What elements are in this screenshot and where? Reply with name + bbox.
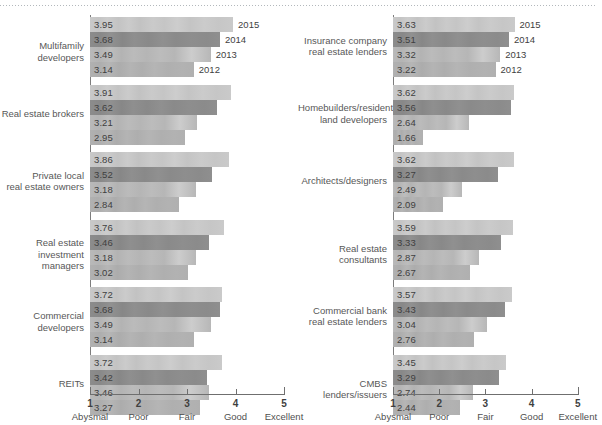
x-axis-tick-3 (485, 389, 486, 394)
bar-value-label: 3.68 (94, 303, 113, 316)
bar-row[interactable]: 3.682014 (0, 32, 298, 47)
bar-row[interactable]: 3.18 (0, 182, 298, 197)
bar-group: 3.763.463.183.02 (0, 220, 298, 280)
bar-row[interactable]: 3.68 (0, 302, 298, 317)
x-axis-tick-5 (578, 387, 579, 395)
bar-value-label: 2.64 (397, 116, 416, 129)
bar-value-label: 2.95 (94, 131, 113, 144)
plot-area-left: Multifamily developers3.9520153.6820143.… (0, 12, 298, 394)
bar-group: 3.573.433.042.76 (298, 287, 596, 347)
x-axis-tick-1 (393, 387, 394, 395)
year-callout-2014: 2014 (514, 33, 535, 46)
bar-value-label: 3.63 (397, 18, 416, 31)
bar-row[interactable]: 3.91 (0, 85, 298, 100)
bar-value-label: 3.46 (94, 386, 113, 399)
bar-value-label: 3.32 (397, 48, 416, 61)
bar-value-label: 3.45 (397, 356, 416, 369)
x-axis-tick-4 (236, 389, 237, 394)
bar-value-label: 2.09 (397, 198, 416, 211)
bar-row[interactable]: 3.29 (298, 370, 596, 385)
bar-row[interactable]: 2.87 (298, 250, 596, 265)
bar-value-label: 3.62 (397, 86, 416, 99)
x-axis-tick-4 (532, 389, 533, 394)
bar-row[interactable]: 3.72 (0, 355, 298, 370)
bar-row[interactable]: 3.27 (298, 167, 596, 182)
bar-row[interactable]: 3.42 (0, 370, 298, 385)
bar-row[interactable]: 3.59 (298, 220, 596, 235)
bar-value-label: 3.59 (397, 221, 416, 234)
year-callout-2012: 2012 (501, 63, 522, 76)
x-axis-tick-word-excellent: Excellent (548, 411, 602, 423)
bar-row[interactable]: 3.02 (0, 265, 298, 280)
bar-row[interactable]: 3.49 (0, 317, 298, 332)
bar-value-label: 3.91 (94, 86, 113, 99)
bar-row[interactable]: 3.56 (298, 100, 596, 115)
x-axis-tick-number-1: 1 (70, 398, 110, 410)
bar-value-label: 3.62 (397, 153, 416, 166)
x-axis-tick-number-4: 4 (216, 398, 256, 410)
bar-row[interactable]: 2.95 (0, 130, 298, 145)
year-callout-2012: 2012 (199, 63, 220, 76)
bar-value-label: 3.29 (397, 371, 416, 384)
bar-value-label: 3.14 (94, 63, 113, 76)
bar-row[interactable]: 3.512014 (298, 32, 596, 47)
bar-value-label: 3.57 (397, 288, 416, 301)
bar-row[interactable]: 2.84 (0, 197, 298, 212)
bar-value-label: 3.62 (94, 101, 113, 114)
x-axis-tick-1 (90, 387, 91, 395)
bar-row[interactable]: 3.45 (298, 355, 596, 370)
bar-value-label: 3.52 (94, 168, 113, 181)
bar-row[interactable]: 3.62 (298, 85, 596, 100)
bar-row[interactable]: 3.04 (298, 317, 596, 332)
x-axis-tick-number-4: 4 (512, 398, 552, 410)
bar-row[interactable]: 3.14 (0, 332, 298, 347)
bar-group: 3.593.332.872.67 (298, 220, 596, 280)
bar-value-label: 3.18 (94, 251, 113, 264)
bar-row[interactable]: 3.492013 (0, 47, 298, 62)
bar-value-label: 3.22 (397, 63, 416, 76)
x-axis-tick-2 (439, 389, 440, 394)
bar-value-label: 3.14 (94, 333, 113, 346)
bar-row[interactable]: 3.52 (0, 167, 298, 182)
bar-row[interactable]: 2.76 (298, 332, 596, 347)
bar-value-label: 1.66 (397, 131, 416, 144)
bar-row[interactable]: 3.21 (0, 115, 298, 130)
x-axis-tick-number-1: 1 (373, 398, 413, 410)
bar-value-label: 3.72 (94, 288, 113, 301)
bar-row[interactable]: 3.952015 (0, 17, 298, 32)
bar-value-label: 2.74 (397, 386, 416, 399)
bar-row[interactable]: 3.57 (298, 287, 596, 302)
bar-row[interactable]: 3.86 (0, 152, 298, 167)
x-axis-line (90, 394, 284, 395)
x-axis-tick-number-5: 5 (558, 398, 598, 410)
bar-row[interactable]: 3.46 (0, 235, 298, 250)
bar-row[interactable]: 3.322013 (298, 47, 596, 62)
bar-row[interactable]: 2.49 (298, 182, 596, 197)
year-callout-2015: 2015 (520, 18, 541, 31)
bar-value-label: 3.49 (94, 48, 113, 61)
bar-row[interactable]: 3.62 (0, 100, 298, 115)
bar-group: 3.913.623.212.95 (0, 85, 298, 145)
bar-row[interactable]: 1.66 (298, 130, 596, 145)
bar-row[interactable]: 3.62 (298, 152, 596, 167)
bar-row[interactable]: 2.67 (298, 265, 596, 280)
bar-group: 3.6320153.5120143.3220133.222012 (298, 17, 596, 77)
bar-row[interactable]: 3.76 (0, 220, 298, 235)
bar-row[interactable]: 3.43 (298, 302, 596, 317)
bar-row[interactable]: 2.64 (298, 115, 596, 130)
bar-row[interactable]: 3.33 (298, 235, 596, 250)
bar-row[interactable]: 3.222012 (298, 62, 596, 77)
x-axis-tick-number-3: 3 (167, 398, 207, 410)
bar-value-label: 3.18 (94, 183, 113, 196)
bar-value-label: 3.43 (397, 303, 416, 316)
bar-value-label: 2.76 (397, 333, 416, 346)
bar-row[interactable]: 3.18 (0, 250, 298, 265)
x-axis-tick-2 (139, 389, 140, 394)
bar-row[interactable]: 3.72 (0, 287, 298, 302)
year-callout-2015: 2015 (238, 18, 259, 31)
x-axis-tick-number-2: 2 (119, 398, 159, 410)
bar-row[interactable]: 3.632015 (298, 17, 596, 32)
x-axis-line (393, 394, 578, 395)
bar-row[interactable]: 2.09 (298, 197, 596, 212)
bar-row[interactable]: 3.142012 (0, 62, 298, 77)
